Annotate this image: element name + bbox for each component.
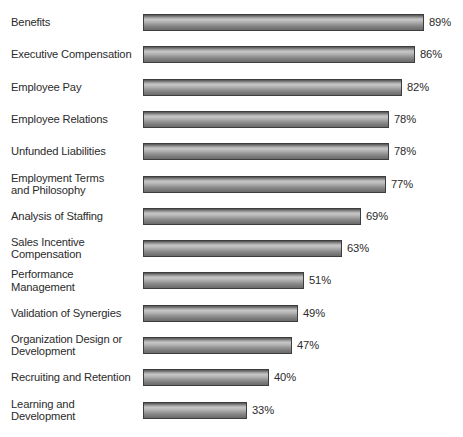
bar (143, 272, 304, 289)
chart-bar-row: Organization Design or Development47% (0, 330, 463, 362)
bar-track (143, 369, 453, 386)
bar-value-label: 51% (309, 274, 331, 287)
bar-value-label: 33% (252, 404, 274, 417)
bar-track (143, 305, 453, 322)
bar (143, 46, 415, 63)
bar-value-label: 78% (394, 145, 416, 158)
chart-bar-row: Employee Pay82% (0, 72, 463, 104)
chart-bar-row: Learning and Development33% (0, 395, 463, 427)
bar (143, 208, 361, 225)
category-label: Learning and Development (11, 398, 137, 422)
bar-value-label: 47% (297, 339, 319, 352)
bar-value-label: 40% (274, 371, 296, 384)
bar-value-label: 78% (394, 113, 416, 126)
bar-track (143, 402, 453, 419)
category-label: Employee Relations (11, 113, 137, 125)
chart-bar-row: Analysis of Staffing69% (0, 201, 463, 233)
category-label: Employment Terms and Philosophy (11, 172, 137, 196)
bar (143, 240, 342, 257)
category-label: Unfunded Liabilities (11, 145, 137, 157)
bar-track (143, 208, 453, 225)
bar (143, 176, 386, 193)
category-label: Recruiting and Retention (11, 371, 137, 383)
bar (143, 14, 424, 31)
chart-bar-row: Executive Compensation86% (0, 39, 463, 71)
category-label: Executive Compensation (11, 48, 137, 60)
bar-value-label: 86% (420, 48, 442, 61)
bar (143, 402, 247, 419)
category-label: Performance Management (11, 268, 137, 292)
bar (143, 305, 298, 322)
chart-bar-row: Unfunded Liabilities78% (0, 136, 463, 168)
bar (143, 369, 269, 386)
bar-value-label: 69% (366, 210, 388, 223)
bar-track (143, 14, 453, 31)
bar (143, 111, 389, 128)
horizontal-bar-chart: Benefits89%Executive Compensation86%Empl… (0, 0, 463, 437)
chart-bar-row: Employee Relations78% (0, 104, 463, 136)
bar (143, 79, 402, 96)
category-label: Benefits (11, 16, 137, 28)
chart-bar-row: Recruiting and Retention40% (0, 362, 463, 394)
chart-bar-row: Benefits89% (0, 7, 463, 39)
chart-bar-row: Sales Incentive Compensation63% (0, 233, 463, 265)
chart-bar-row: Performance Management51% (0, 265, 463, 297)
category-label: Organization Design or Development (11, 333, 137, 357)
bar (143, 337, 292, 354)
bar-value-label: 49% (303, 307, 325, 320)
bar-value-label: 77% (391, 178, 413, 191)
bar-track (143, 272, 453, 289)
bar-track (143, 240, 453, 257)
category-label: Employee Pay (11, 81, 137, 93)
chart-bar-row: Validation of Synergies49% (0, 298, 463, 330)
chart-bar-row: Employment Terms and Philosophy77% (0, 169, 463, 201)
bar-track (143, 46, 453, 63)
bar-value-label: 89% (429, 16, 451, 29)
bar-value-label: 82% (407, 81, 429, 94)
bar (143, 143, 389, 160)
category-label: Analysis of Staffing (11, 210, 137, 222)
category-label: Validation of Synergies (11, 307, 137, 319)
category-label: Sales Incentive Compensation (11, 236, 137, 260)
bar-value-label: 63% (347, 242, 369, 255)
